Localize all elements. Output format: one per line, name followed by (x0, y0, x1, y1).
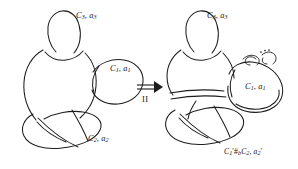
label-c3-left: C3, a3 (76, 11, 97, 20)
label-c2-left-a-sub: 2 (106, 137, 109, 143)
left-body-outer-right (80, 53, 96, 118)
knot-diagram-figure: C3, a3 C1, a1 C2, a2 C3, a3 C1, a1 C1′#b… (0, 0, 298, 169)
right-body-lower-link (179, 118, 208, 138)
right-body-bottom-edge2 (171, 96, 226, 99)
left-link-diagram (22, 11, 143, 149)
right-component-sum-cross-arc2 (214, 106, 230, 137)
left-component-c2-cross-arc (38, 118, 78, 147)
right-link-diagram (166, 11, 283, 145)
right-band-clasp-right (262, 52, 276, 64)
right-body-outer-left (167, 50, 181, 95)
label-connected-sum-right: C1′#bC2, a2′ (224, 147, 262, 156)
twist-dot-2 (264, 50, 266, 52)
left-body-outer-left (24, 50, 43, 120)
right-component-sum-cross-arc (180, 114, 220, 143)
transformation-arrow (137, 81, 163, 93)
move-label-roman-two: II (142, 94, 148, 104)
right-band-clasp-curl (245, 57, 256, 65)
right-body-sum-connector (188, 101, 196, 119)
label-c1-right: C1, a1 (245, 82, 266, 91)
label-c3-right: C3, a3 (207, 11, 228, 20)
left-component-c2-cross-arc2 (72, 110, 88, 141)
left-body-lower-link (37, 122, 66, 142)
label-c1-left: C1, a1 (110, 64, 131, 73)
left-component-c3-lower-arc (45, 51, 83, 60)
label-c3-right-a-sub: 3 (225, 14, 228, 20)
label-c1-right-a-sub: 1 (263, 85, 266, 91)
twist-dot-1 (260, 51, 262, 53)
twist-dot-3 (268, 49, 270, 51)
right-component-c3-lower-arc (183, 51, 221, 60)
arrow-head-icon (154, 81, 163, 93)
label-sum-a2-prime: ′ (261, 147, 263, 156)
right-component-sum-loop (166, 107, 244, 144)
label-c2-left: C2, a2 (88, 134, 109, 143)
label-c3-left-a-sub: 3 (94, 14, 97, 20)
right-band-clasp-right2 (262, 58, 267, 64)
right-component-c1-band-lower (236, 90, 279, 109)
right-body-bottom-edge (170, 90, 224, 93)
label-c1-left-a-sub: 1 (128, 67, 131, 73)
